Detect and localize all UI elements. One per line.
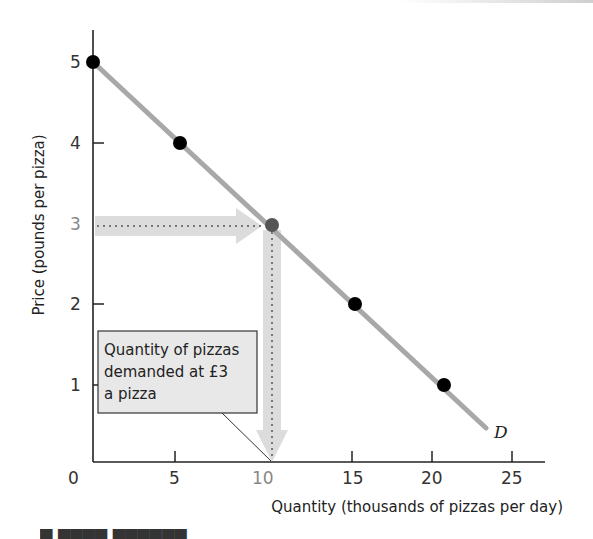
y-axis-title: Price (pounds per pizza) <box>30 134 48 315</box>
callout-line-1: Quantity of pizzas <box>104 341 239 359</box>
x-tick-15: 15 <box>342 468 364 488</box>
x-axis-title: Quantity (thousands of pizzas per day) <box>271 498 563 516</box>
price-arrow <box>95 208 262 244</box>
x-tick-25: 25 <box>501 468 523 488</box>
x-tick-5: 5 <box>169 468 180 488</box>
callout-line-3: a pizza <box>104 385 157 403</box>
point-b <box>173 136 187 150</box>
callout-line-2: demanded at £3 <box>104 363 228 381</box>
y-tick-4: 4 <box>70 133 81 153</box>
x-tick-0: 0 <box>68 468 79 488</box>
point-d <box>348 297 362 311</box>
point-a <box>86 55 100 69</box>
point-c-highlight <box>265 218 279 232</box>
y-tick-5: 5 <box>70 52 81 72</box>
point-e <box>437 378 451 392</box>
x-tick-10: 10 <box>252 468 274 488</box>
y-tick-1: 1 <box>70 375 81 395</box>
clipped-caption: █ ████ ██████ <box>40 528 260 539</box>
demand-chart: 5 4 3 2 1 0 5 10 15 20 25 Price (pounds … <box>0 0 593 539</box>
x-tick-20: 20 <box>421 468 443 488</box>
y-tick-3: 3 <box>70 214 81 234</box>
curve-label-d: D <box>493 422 508 442</box>
callout: Quantity of pizzas demanded at £3 a pizz… <box>98 331 271 461</box>
y-tick-2: 2 <box>70 294 81 314</box>
quantity-arrow <box>256 230 288 462</box>
